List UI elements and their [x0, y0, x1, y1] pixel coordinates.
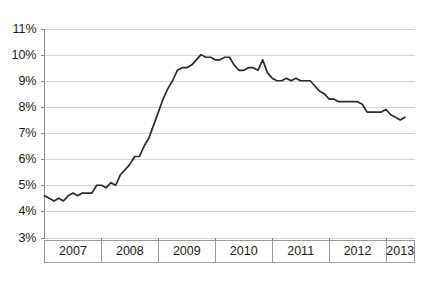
x-tick-label: 2011 — [287, 244, 314, 258]
x-tick-label: 2012 — [344, 244, 372, 258]
x-tick-label: 2013 — [386, 244, 414, 258]
y-tick-label: 7% — [18, 126, 36, 140]
x-tick-label: 2007 — [59, 244, 87, 258]
y-tick-label: 5% — [18, 178, 36, 192]
y-tick-label: 4% — [18, 204, 36, 218]
y-tick-label: 11% — [12, 22, 36, 36]
x-tick-label: 2009 — [173, 244, 201, 258]
chart-canvas: 3%4%5%6%7%8%9%10%11% 2007200820092010201… — [0, 0, 430, 281]
y-tick-label: 10% — [11, 48, 36, 62]
x-tick-label: 2010 — [230, 244, 258, 258]
y-tick-label: 3% — [18, 231, 36, 245]
y-tick-label: 8% — [18, 100, 36, 114]
y-tick-label: 9% — [18, 74, 36, 88]
x-tick-label: 2008 — [116, 244, 144, 258]
y-tick-label: 6% — [18, 152, 36, 166]
unemployment-rate-chart: 3%4%5%6%7%8%9%10%11% 2007200820092010201… — [0, 0, 430, 281]
